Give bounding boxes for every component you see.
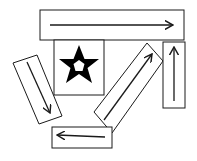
- top-arrow-box: [40, 10, 184, 40]
- bottom-arrow-box: [52, 127, 112, 148]
- puzzle-figure: [0, 0, 197, 161]
- right-vertical-arrow-box: [163, 42, 185, 108]
- star-box: [54, 40, 104, 95]
